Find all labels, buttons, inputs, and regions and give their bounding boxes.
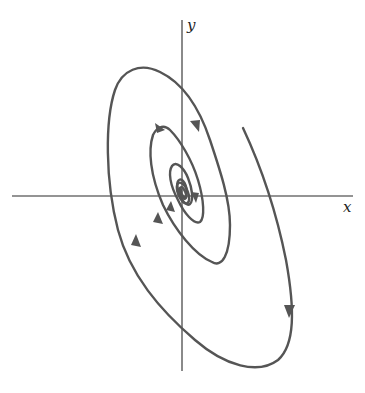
arrow-down-right — [284, 305, 295, 318]
phase-portrait — [0, 0, 365, 393]
arrow-up-left-inner — [166, 201, 175, 212]
y-axis-label: y — [187, 16, 195, 34]
x-axis-label: x — [343, 198, 351, 216]
arrow-up-left-mid — [153, 212, 163, 224]
trajectory-outer — [108, 68, 292, 368]
arrow-top-outer — [190, 120, 200, 132]
arrow-up-left-outer — [131, 234, 141, 247]
